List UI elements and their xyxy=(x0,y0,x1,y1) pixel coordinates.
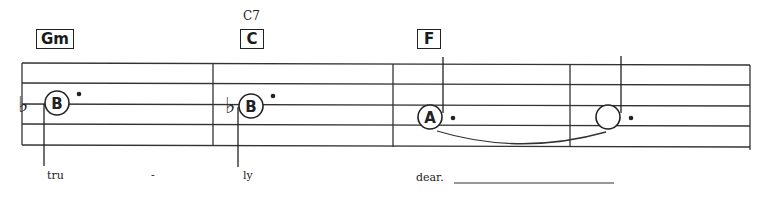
chord-alt-c7: C7 xyxy=(243,9,260,23)
chord-box-f: F xyxy=(417,29,441,49)
dot-icon xyxy=(77,92,82,97)
lyric-hyphen: - xyxy=(151,169,155,182)
flat-icon: ♭ xyxy=(18,92,28,117)
staff-notation: ♭ B ♭ B A xyxy=(0,0,767,197)
flat-icon: ♭ xyxy=(225,93,235,118)
note-a: A xyxy=(418,57,455,129)
svg-text:B: B xyxy=(51,95,62,113)
chord-box-c: C xyxy=(240,29,264,49)
tie-arc xyxy=(437,131,606,144)
note-b-flat-1: ♭ B xyxy=(18,91,81,166)
lyric-dear: dear. xyxy=(416,171,444,184)
dot-icon xyxy=(629,116,634,121)
dot-icon xyxy=(271,94,276,99)
chord-box-gm: Gm xyxy=(36,29,74,49)
svg-text:A: A xyxy=(424,109,436,127)
note-tied xyxy=(596,56,633,129)
staff-lines xyxy=(22,63,750,147)
lyric-ly: ly xyxy=(243,169,253,182)
dot-icon xyxy=(451,116,456,121)
svg-text:B: B xyxy=(245,98,256,116)
bar-lines xyxy=(22,63,750,150)
lyric-tru: tru xyxy=(47,169,64,182)
